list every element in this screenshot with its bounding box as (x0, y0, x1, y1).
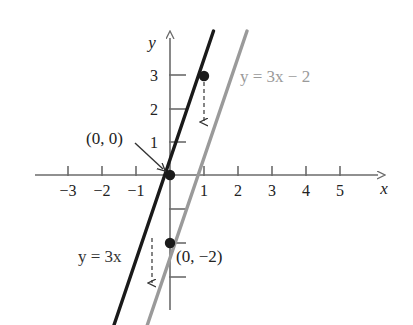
x-tick-label-2: 2 (234, 182, 242, 199)
y-tick-label-2: 2 (150, 101, 158, 118)
point-0-minus-2 (165, 238, 175, 248)
origin-point-label: (0, 0) (86, 129, 123, 148)
x-tick-label-1: 1 (200, 182, 208, 199)
gray-line-equation-label: y = 3x − 2 (240, 67, 310, 86)
y-tick-labels: 3 2 1 (150, 67, 158, 151)
y-tick-label-3: 3 (150, 67, 158, 84)
point-origin (165, 170, 175, 180)
x-axis-label: x (379, 179, 388, 198)
x-tick-label-3: 3 (268, 182, 276, 199)
x-tick-label-5: 5 (336, 182, 344, 199)
y-axis-label: y (146, 33, 156, 52)
x-tick-label--3: −3 (59, 182, 76, 199)
x-tick-label--1: −1 (127, 182, 144, 199)
y-tick-label-1: 1 (150, 134, 158, 151)
black-line-equation-label: y = 3x (78, 247, 122, 266)
graph-figure: −3 −2 −1 1 2 3 4 5 3 2 1 y x y = 3x − 2 … (0, 0, 413, 325)
intercept-point-label: (0, −2) (176, 247, 222, 266)
coordinate-plane-svg: −3 −2 −1 1 2 3 4 5 3 2 1 y x y = 3x − 2 … (0, 0, 413, 325)
point-1-3 (199, 71, 209, 81)
x-tick-label--2: −2 (93, 182, 110, 199)
x-tick-label-4: 4 (302, 182, 310, 199)
x-tick-labels: −3 −2 −1 1 2 3 4 5 (59, 182, 344, 199)
